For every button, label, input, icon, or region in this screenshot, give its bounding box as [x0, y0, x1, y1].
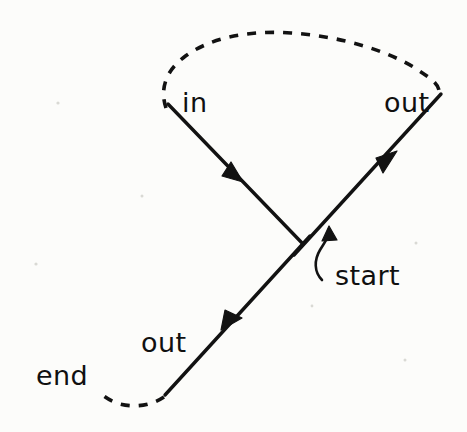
- paper-speck: [404, 359, 407, 362]
- bottom-dashed-arc: [98, 391, 164, 406]
- start-pointer-arrowhead: [322, 226, 337, 241]
- paper-speck: [415, 242, 418, 245]
- label-out-top: out: [384, 87, 429, 118]
- start-pointer-curve: [316, 236, 328, 280]
- label-out-bottom: out: [141, 327, 186, 358]
- paper-speck: [34, 262, 37, 265]
- paper-speck: [56, 101, 59, 104]
- out-top-strand: [294, 94, 441, 255]
- diagram-canvas: in out start out end: [0, 0, 467, 432]
- out-top-strand-arrowhead: [376, 151, 397, 173]
- paper-speck: [311, 305, 314, 308]
- paper-speck: [141, 195, 144, 198]
- label-end: end: [36, 360, 88, 391]
- knot-crossing-figure: in out start out end: [0, 0, 467, 432]
- label-start: start: [335, 260, 400, 291]
- label-in: in: [182, 87, 207, 118]
